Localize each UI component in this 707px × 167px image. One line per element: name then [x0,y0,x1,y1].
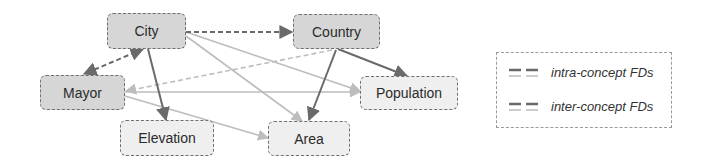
legend: intra-concept FDs inter-concept FDs [496,52,672,128]
edge-country-population [338,49,407,76]
node-label: Mayor [63,85,102,101]
node-elevation: Elevation [120,120,214,156]
legend-label: intra-concept FDs [551,65,654,80]
node-country: Country [293,14,380,49]
edge-city-area [186,36,302,121]
legend-label: inter-concept FDs [551,99,653,114]
node-area: Area [268,121,350,156]
edge-city-elevation [148,49,166,120]
legend-item-inter: inter-concept FDs [497,99,653,114]
edge-country-area [309,50,336,120]
node-label: City [134,23,158,39]
edge-city-mayor [84,49,143,74]
node-label: Country [312,24,361,40]
legend-item-intra: intra-concept FDs [497,65,654,80]
node-mayor: Mayor [40,75,125,110]
node-population: Population [360,76,458,110]
node-city: City [107,13,186,49]
node-label: Population [376,85,442,101]
node-label: Area [294,131,324,147]
node-label: Elevation [138,130,196,146]
dashed-line-pair-icon [509,67,539,79]
solid-line-pair-icon [509,101,539,113]
